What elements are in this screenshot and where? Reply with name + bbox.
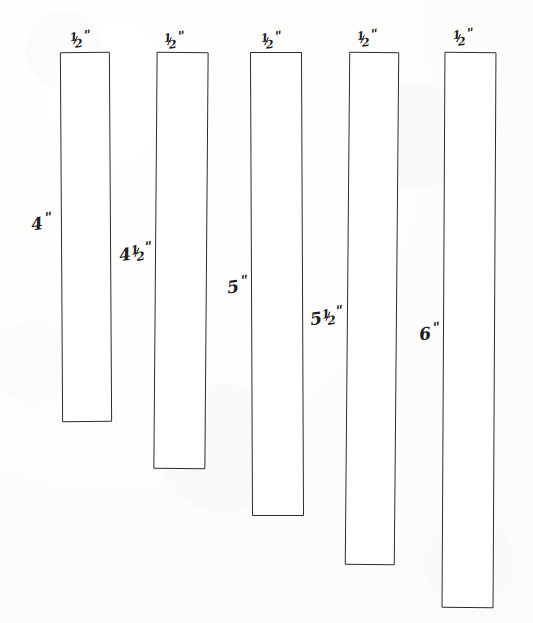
fraction-glyph-height-4: 12 <box>321 310 335 324</box>
strip-rectangle-1 <box>60 52 112 422</box>
fraction-glyph-width-4: 12 <box>357 34 370 47</box>
width-label-4: 12" <box>356 28 379 49</box>
inch-mark-height-4: " <box>335 304 343 319</box>
fraction-glyph-width-3: 12 <box>261 36 274 49</box>
height-label-4: 512" <box>309 304 345 329</box>
strip-rectangle-2 <box>153 52 208 469</box>
fraction-glyph-width-5: 12 <box>453 33 466 46</box>
inch-mark-width-2: " <box>177 30 185 44</box>
fraction-glyph-width-2: 12 <box>164 36 177 49</box>
fraction-glyph-height-2: 12 <box>130 246 144 260</box>
height-whole-1: 4 <box>30 215 44 234</box>
height-label-1: 4" <box>30 211 53 234</box>
width-label-1: 12" <box>69 29 92 50</box>
inch-mark-width-5: " <box>466 27 474 41</box>
height-label-3: 5" <box>226 274 249 297</box>
height-whole-3: 5 <box>226 278 240 297</box>
drawing-sheet: 12" 12" 12" 12" 12" 4" 412" 5" 512" 6" <box>0 0 533 623</box>
strip-rectangle-5 <box>442 52 497 608</box>
inch-mark-width-4: " <box>370 28 378 42</box>
strip-rectangle-4 <box>345 52 399 565</box>
inch-mark-width-1: " <box>83 29 91 43</box>
width-label-5: 12" <box>452 27 475 48</box>
fraction-glyph-width-1: 12 <box>70 35 83 48</box>
height-label-5: 6" <box>418 321 441 344</box>
inch-mark-height-5: " <box>432 320 440 335</box>
height-label-2: 412" <box>118 240 154 265</box>
strip-rectangle-3 <box>250 52 304 516</box>
height-whole-5: 6 <box>418 325 432 344</box>
width-label-3: 12" <box>260 30 283 51</box>
inch-mark-height-3: " <box>240 273 248 288</box>
width-label-2: 12" <box>163 30 186 51</box>
inch-mark-width-3: " <box>274 30 282 44</box>
inch-mark-height-1: " <box>44 210 52 225</box>
inch-mark-height-2: " <box>144 240 152 255</box>
